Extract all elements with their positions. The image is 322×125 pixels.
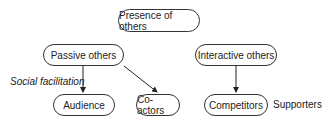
node-passive-others: Passive others bbox=[43, 44, 124, 66]
label-supporters: Supporters bbox=[273, 99, 322, 110]
node-label: Presence of others bbox=[119, 10, 199, 32]
node-presence-of-others: Presence of others bbox=[118, 9, 200, 32]
node-competitors: Competitors bbox=[204, 94, 268, 116]
node-interactive-others: Interactive others bbox=[195, 44, 277, 66]
node-label: Passive others bbox=[51, 50, 117, 61]
node-label: Interactive others bbox=[198, 50, 275, 61]
label-social-facilitation: Social facilitation bbox=[10, 76, 84, 87]
node-label: Competitors bbox=[209, 100, 263, 111]
node-audience: Audience bbox=[53, 94, 115, 116]
node-label: Co-actors bbox=[137, 94, 179, 116]
node-label: Audience bbox=[63, 100, 105, 111]
diagram: Presence of others Passive others Intera… bbox=[0, 0, 322, 125]
edge-passive-coactors bbox=[124, 66, 157, 92]
node-co-actors: Co-actors bbox=[136, 94, 180, 116]
